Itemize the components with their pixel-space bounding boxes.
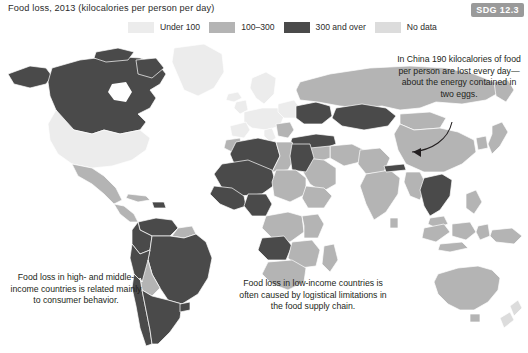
- legend-label-under-100: Under 100: [160, 22, 200, 33]
- region-ethiopia: [302, 186, 332, 208]
- legend-label-100-300: 100–300: [241, 22, 274, 33]
- region-scandinavia: [250, 72, 276, 104]
- food-loss-map-figure: Food loss, 2013 (kilocalories per person…: [0, 0, 528, 353]
- legend-swatch-300-and-over: [284, 22, 310, 33]
- legend: Under 100 100–300 300 and over No data: [128, 22, 446, 33]
- annotation-high-income: Food loss in high- and middle-income cou…: [8, 272, 144, 307]
- region-nepal: [384, 164, 406, 172]
- annotation-china: In China 190 kilocalories of food per pe…: [396, 54, 522, 100]
- region-alaska: [8, 66, 52, 88]
- region-east-africa: [302, 214, 324, 238]
- region-brazil: [148, 234, 212, 304]
- region-australia: [434, 266, 500, 310]
- region-balkans: [276, 122, 294, 138]
- region-nigeria: [244, 194, 272, 216]
- legend-item-300-and-over: 300 and over: [284, 22, 375, 33]
- region-sulawesi: [476, 224, 490, 240]
- region-ukraine: [296, 102, 332, 124]
- region-kazakhstan: [332, 104, 396, 130]
- region-borneo: [452, 222, 476, 240]
- region-cuba: [126, 194, 150, 202]
- region-new-zealand-south: [500, 312, 514, 328]
- status-badge: SDG 12.3: [471, 3, 524, 17]
- region-mexico: [72, 164, 122, 204]
- region-indochina: [420, 174, 452, 216]
- region-central-america: [114, 204, 138, 222]
- region-papua-new-guinea: [490, 228, 522, 244]
- region-sumatra: [422, 224, 450, 242]
- region-sudan-chad: [272, 170, 306, 202]
- region-china: [394, 124, 476, 172]
- region-tasmania: [470, 314, 480, 322]
- region-japan: [488, 122, 508, 154]
- annotation-low-income: Food loss in low-income countries is oft…: [238, 278, 388, 313]
- region-angola: [258, 236, 292, 260]
- region-uruguay: [180, 302, 190, 312]
- page-title: Food loss, 2013 (kilocalories per person…: [8, 3, 215, 13]
- region-korea: [476, 136, 488, 150]
- region-arctic-islands: [94, 48, 134, 62]
- legend-item-100-300: 100–300: [209, 22, 283, 33]
- legend-swatch-100-300: [209, 22, 235, 33]
- legend-label-no-data: No data: [407, 22, 437, 33]
- legend-swatch-no-data: [375, 22, 401, 33]
- region-iberia: [230, 122, 250, 138]
- legend-item-no-data: No data: [375, 22, 446, 33]
- region-new-zealand: [510, 300, 522, 316]
- legend-swatch-under-100: [128, 22, 154, 33]
- legend-item-under-100: Under 100: [128, 22, 209, 33]
- legend-label-300-and-over: 300 and over: [316, 22, 366, 33]
- region-madagascar: [322, 244, 338, 272]
- region-philippines: [466, 190, 482, 214]
- region-java: [438, 242, 468, 252]
- region-greenland: [172, 44, 224, 96]
- region-hispaniola: [152, 202, 166, 208]
- region-india: [360, 170, 400, 220]
- region-sri-lanka: [390, 218, 398, 228]
- region-iceland: [226, 92, 242, 102]
